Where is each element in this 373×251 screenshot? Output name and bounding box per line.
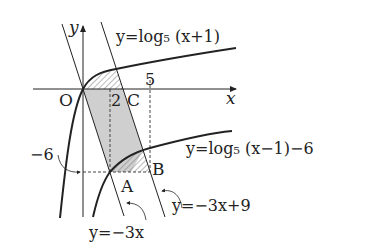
label-line-left: y=−3x xyxy=(88,223,144,242)
tick-x-five: 5 xyxy=(145,70,155,89)
point-c-label: C xyxy=(127,90,140,110)
label-log-upper: y=log₅ (x+1) xyxy=(115,27,220,46)
label-line-right: y=−3x+9 xyxy=(171,196,251,215)
label-log-lower: y=log₅ (x−1)−6 xyxy=(185,139,314,158)
point-b-label: B xyxy=(152,159,165,179)
tick-x-two: 2 xyxy=(111,91,121,110)
leader-line-left xyxy=(127,203,146,220)
x-axis-label: x xyxy=(226,88,236,108)
log-graph-diagram: y x O 2 C 5 −6 A B y=log₅ (x+1) y=log₅ (… xyxy=(0,0,373,251)
point-a-label: A xyxy=(120,176,134,196)
tick-y-neg-six: −6 xyxy=(30,145,54,164)
y-axis-label: y xyxy=(68,17,79,37)
leader-neg-six xyxy=(58,155,80,172)
origin-label: O xyxy=(59,90,73,110)
